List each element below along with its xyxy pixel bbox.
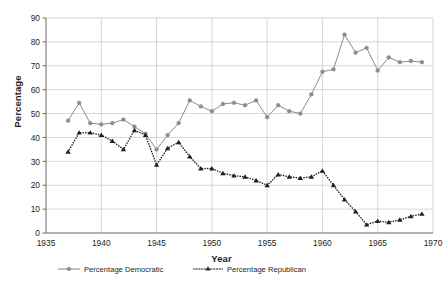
data-point-democratic [343,33,347,37]
y-axis-title: Percentage [12,67,23,137]
legend-swatch-republican-icon [193,264,223,274]
x-axis-tick-label: 1955 [258,238,277,248]
data-point-democratic [77,101,81,105]
data-point-democratic [155,147,159,151]
data-point-republican [154,162,159,166]
data-point-democratic [254,99,258,103]
data-point-democratic [409,59,413,63]
chart-container: 0102030405060708090193519401945195019551… [0,0,443,288]
data-point-democratic [265,115,269,119]
data-point-democratic [188,99,192,103]
data-point-democratic [276,103,280,107]
x-axis-tick-label: 1965 [368,238,387,248]
data-point-republican [320,168,325,172]
data-point-democratic [166,133,170,137]
legend-label-republican: Percentage Republican [227,265,306,274]
data-point-democratic [420,60,424,64]
y-axis-tick-label: 0 [35,228,40,238]
data-point-republican [253,178,258,182]
data-point-democratic [99,122,103,126]
line-chart-plot: 0102030405060708090193519401945195019551… [0,0,443,288]
data-point-democratic [321,70,325,74]
data-point-republican [176,140,181,144]
legend-label-democratic: Percentage Democratic [84,265,163,274]
data-point-democratic [221,102,225,106]
data-point-democratic [354,51,358,55]
data-point-democratic [66,119,70,123]
data-point-democratic [332,67,336,71]
y-axis-tick-label: 70 [31,61,41,71]
y-axis-tick-label: 90 [31,13,41,23]
x-axis-tick-label: 1960 [313,238,332,248]
x-axis-tick-label: 1950 [203,238,222,248]
data-point-democratic [243,103,247,107]
y-axis-tick-label: 10 [31,204,41,214]
data-point-republican [342,197,347,201]
y-axis-tick-label: 50 [31,109,41,119]
data-point-democratic [387,56,391,60]
data-point-republican [375,219,380,223]
data-point-republican [276,172,281,176]
y-axis-tick-label: 30 [31,157,41,167]
data-point-democratic [232,101,236,105]
data-point-democratic [398,60,402,64]
legend-item-republican: Percentage Republican [193,264,306,274]
data-point-democratic [287,109,291,113]
data-point-republican [419,211,424,215]
data-point-democratic [309,93,313,97]
y-axis-tick-label: 60 [31,85,41,95]
x-axis-tick-label: 1940 [92,238,111,248]
x-axis-tick-label: 1935 [37,238,56,248]
x-axis-title: Year [0,253,443,264]
x-axis-tick-label: 1970 [424,238,443,248]
series-line-democratic [68,35,422,150]
data-point-democratic [88,121,92,125]
data-point-republican [99,133,104,137]
y-axis-tick-label: 80 [31,37,41,47]
data-point-democratic [210,109,214,113]
data-point-democratic [376,69,380,73]
data-point-democratic [199,104,203,108]
data-point-democratic [110,121,114,125]
data-point-democratic [122,118,126,122]
x-axis-tick-label: 1945 [147,238,166,248]
y-axis-tick-label: 20 [31,180,41,190]
legend-item-democratic: Percentage Democratic [58,264,163,274]
data-point-democratic [177,121,181,125]
y-axis-tick-label: 40 [31,133,41,143]
legend-swatch-democratic-icon [58,264,80,274]
data-point-democratic [365,46,369,50]
data-point-democratic [298,112,302,116]
